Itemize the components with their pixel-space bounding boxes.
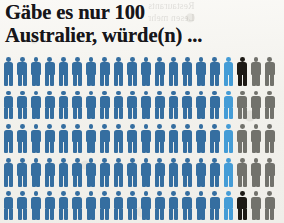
figure-head [34, 91, 39, 96]
person-figure-blue [168, 124, 179, 153]
figure-torso [4, 130, 14, 142]
figure-leg-l [169, 141, 173, 153]
figure-torso [31, 197, 41, 209]
figure-leg-l [142, 141, 146, 153]
figure-torso [72, 197, 82, 209]
person-figure-blue [154, 91, 165, 120]
figure-torso [210, 130, 220, 142]
figure-torso [17, 163, 27, 175]
figure-leg-r [78, 74, 82, 86]
person-figure-blue [58, 124, 69, 153]
figure-head [75, 91, 80, 96]
figure-leg-l [210, 108, 214, 120]
figure-torso [59, 96, 69, 108]
person-figure-blue [86, 124, 97, 153]
person-figure-blue [17, 191, 28, 220]
person-figure-gray [251, 124, 262, 153]
person-figure-blue [113, 57, 124, 86]
figure-torso [17, 197, 27, 209]
figure-head [75, 124, 80, 129]
figure-head [75, 191, 80, 196]
figure-leg-l [32, 141, 36, 153]
figure-head [199, 158, 204, 163]
figure-torso [182, 62, 192, 74]
person-figure-blue [3, 57, 14, 86]
figure-leg-r [160, 108, 164, 120]
figure-torso [155, 62, 165, 74]
person-figure-blue [113, 91, 124, 120]
person-figure-blue [44, 158, 55, 187]
figure-leg-l [197, 209, 201, 221]
figure-leg-l [142, 74, 146, 86]
person-figure-blue [154, 57, 165, 86]
figure-head [226, 124, 231, 129]
figure-leg-r [201, 74, 205, 86]
person-figure-blue [31, 191, 42, 220]
person-figure-blue [44, 191, 55, 220]
figure-torso [72, 163, 82, 175]
figure-leg-r [256, 175, 260, 187]
figure-torso [182, 130, 192, 142]
figure-head [61, 57, 66, 62]
figure-head [199, 191, 204, 196]
figure-head [157, 158, 162, 163]
figure-head [6, 158, 11, 163]
figure-torso [141, 130, 151, 142]
figure-torso [100, 163, 110, 175]
figure-head [34, 191, 39, 196]
figure-leg-r [229, 141, 233, 153]
person-figure-blue [86, 191, 97, 220]
figure-leg-r [105, 74, 109, 86]
figure-head [199, 91, 204, 96]
figure-torso [155, 130, 165, 142]
figure-leg-l [210, 209, 214, 221]
person-figure-blue [31, 158, 42, 187]
figure-torso [4, 163, 14, 175]
person-figure-blue [3, 91, 14, 120]
figure-head [240, 191, 245, 196]
figure-leg-r [64, 209, 68, 221]
figure-leg-l [73, 175, 77, 187]
person-figure-blue [86, 57, 97, 86]
figure-leg-r [9, 209, 13, 221]
figure-head [226, 57, 231, 62]
figure-leg-l [32, 74, 36, 86]
figure-leg-l [155, 74, 159, 86]
figure-torso [72, 130, 82, 142]
figure-leg-r [78, 141, 82, 153]
figure-leg-r [270, 74, 274, 86]
person-figure-blue [58, 191, 69, 220]
figure-head [267, 124, 272, 129]
person-figure-blue [3, 124, 14, 153]
figure-head [240, 124, 245, 129]
person-figure-blue [72, 191, 83, 220]
figure-torso [210, 96, 220, 108]
figure-head [171, 158, 176, 163]
figure-head [254, 191, 259, 196]
person-figure-blue [72, 124, 83, 153]
figure-head [199, 57, 204, 62]
figure-head [47, 191, 52, 196]
figure-leg-r [36, 209, 40, 221]
person-figure-blue [17, 158, 28, 187]
person-figure-blue [127, 124, 138, 153]
figure-head [267, 191, 272, 196]
figure-leg-r [50, 209, 54, 221]
figure-leg-l [265, 209, 269, 221]
person-figure-blue [196, 191, 207, 220]
person-figure-gray [264, 158, 275, 187]
figure-torso [4, 197, 14, 209]
figure-torso [265, 96, 275, 108]
person-figure-gray [251, 57, 262, 86]
person-figure-light [223, 191, 234, 220]
figure-leg-l [59, 141, 63, 153]
person-figure-blue [141, 91, 152, 120]
figure-head [171, 191, 176, 196]
figure-torso [237, 163, 247, 175]
figure-leg-r [270, 108, 274, 120]
person-figure-blue [31, 91, 42, 120]
person-figure-blue [113, 124, 124, 153]
figure-leg-l [45, 108, 49, 120]
figure-head [61, 158, 66, 163]
figure-leg-r [23, 74, 27, 86]
